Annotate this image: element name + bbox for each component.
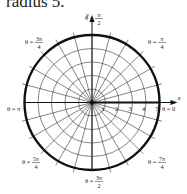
radial-tick-label-1: 1	[102, 105, 105, 112]
angle-label-theta-5pi-4: θ =5π4	[22, 156, 40, 170]
svg-text:π: π	[97, 12, 100, 18]
angle-label-theta-3pi-4: θ =3π4	[25, 36, 43, 50]
radial-line-120	[56, 40, 92, 103]
svg-text:2: 2	[98, 20, 101, 26]
svg-text:4: 4	[38, 44, 41, 50]
svg-text:3π: 3π	[96, 175, 102, 181]
radial-line-60	[92, 40, 128, 103]
radial-tick-label-3: 3	[129, 105, 132, 112]
angle-label-theta-pi-2: θ =π2	[85, 12, 103, 26]
svg-text:2: 2	[98, 183, 101, 189]
radial-line-75	[92, 32, 111, 102]
svg-text:θ =: θ =	[25, 38, 34, 45]
radial-line-255	[73, 103, 92, 173]
polar-grid-diagram: xy12345θ = 0θ =π4θ =π2θ =3π4θ = πθ =5π4θ…	[0, 0, 187, 194]
svg-text:3π: 3π	[36, 36, 42, 42]
radial-line-195	[22, 103, 92, 122]
radial-tick-label-2: 2	[115, 105, 118, 112]
svg-text:4: 4	[161, 44, 164, 50]
svg-text:θ =: θ =	[148, 158, 157, 165]
angle-label-theta-0: θ = 0	[162, 105, 175, 112]
svg-text:θ = 0: θ = 0	[162, 105, 175, 112]
svg-text:θ =: θ =	[85, 177, 94, 184]
angle-label-theta-3pi-2: θ =3π2	[85, 175, 103, 189]
x-axis-label: x	[177, 94, 182, 102]
angle-label-theta-7pi-4: θ =7π4	[148, 156, 166, 170]
angle-label-theta-pi-4: θ =π4	[148, 36, 166, 50]
svg-text:4: 4	[161, 164, 164, 170]
radial-line-15	[92, 84, 162, 103]
radial-line-240	[56, 103, 92, 166]
radial-line-285	[92, 103, 111, 173]
svg-text:π: π	[160, 36, 163, 42]
svg-text:7π: 7π	[159, 156, 165, 162]
radial-line-300	[92, 103, 128, 166]
svg-text:θ =: θ =	[148, 38, 157, 45]
angle-label-theta-pi: θ = π	[7, 105, 21, 112]
radial-line-165	[22, 84, 92, 103]
radial-line-210	[29, 103, 92, 139]
pole-point	[90, 100, 94, 104]
svg-text:θ =: θ =	[22, 158, 31, 165]
svg-text:θ =: θ =	[85, 14, 94, 21]
radial-line-105	[73, 32, 92, 102]
svg-text:θ = π: θ = π	[7, 105, 21, 112]
svg-text:4: 4	[35, 164, 38, 170]
radial-tick-label-5: 5	[156, 105, 159, 112]
svg-text:5π: 5π	[33, 156, 39, 162]
radial-line-150	[29, 66, 92, 102]
radial-line-30	[92, 66, 155, 102]
